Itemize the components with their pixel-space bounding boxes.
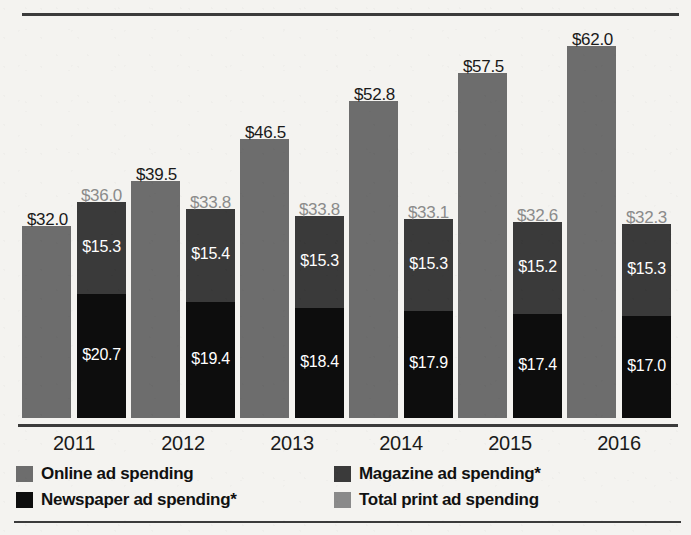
value-label-online-2011: $32.0 <box>20 210 75 230</box>
bar-online-2013 <box>240 139 289 418</box>
bar-online-2014 <box>349 101 398 418</box>
bar-group-2012: $39.5$19.4$15.4$33.8 <box>131 0 235 424</box>
x-tick-label-2013: 2013 <box>240 432 344 455</box>
value-label-newspaper-2013: $18.4 <box>295 353 344 371</box>
segment-online <box>240 139 289 418</box>
legend-label: Total print ad spending <box>359 490 539 510</box>
value-label-newspaper-2015: $17.4 <box>513 356 562 374</box>
segment-online <box>131 181 180 418</box>
x-axis-tick-labels: 201120122013201420152016 <box>0 430 691 460</box>
footnote-text <box>16 527 686 535</box>
x-tick-label-2011: 2011 <box>22 432 126 455</box>
value-label-magazine-2011: $15.3 <box>77 238 126 256</box>
x-axis-baseline <box>18 424 678 427</box>
segment-magazine: $15.4 <box>186 209 235 301</box>
value-label-magazine-2012: $15.4 <box>186 245 235 263</box>
segment-magazine: $15.3 <box>77 202 126 294</box>
segment-newspaper: $19.4 <box>186 302 235 418</box>
legend-item-newspaper[interactable]: Newspaper ad spending* <box>16 490 237 510</box>
bar-online-2011 <box>22 226 71 418</box>
segment-newspaper: $17.0 <box>622 316 671 418</box>
value-label-total-print-2016: $32.3 <box>619 208 674 228</box>
legend-label: Online ad spending <box>41 464 193 484</box>
segment-newspaper: $17.9 <box>404 311 453 418</box>
segment-online <box>22 226 71 418</box>
x-tick-label-2015: 2015 <box>458 432 562 455</box>
value-label-online-2015: $57.5 <box>456 57 511 77</box>
bar-total-print-2014: $17.9$15.3 <box>404 219 453 418</box>
bar-total-print-2013: $18.4$15.3 <box>295 216 344 418</box>
segment-newspaper: $17.4 <box>513 314 562 418</box>
x-tick-label-2012: 2012 <box>131 432 235 455</box>
bar-total-print-2012: $19.4$15.4 <box>186 209 235 418</box>
value-label-online-2012: $39.5 <box>129 165 184 185</box>
value-label-newspaper-2012: $19.4 <box>186 350 235 368</box>
chart-legend: Online ad spendingMagazine ad spending*N… <box>16 464 676 518</box>
segment-online <box>349 101 398 418</box>
bar-total-print-2015: $17.4$15.2 <box>513 222 562 418</box>
value-label-magazine-2016: $15.3 <box>622 260 671 278</box>
value-label-total-print-2013: $33.8 <box>292 200 347 220</box>
bottom-divider-rule <box>14 521 681 523</box>
value-label-newspaper-2011: $20.7 <box>77 346 126 364</box>
value-label-magazine-2013: $15.3 <box>295 252 344 270</box>
value-label-newspaper-2014: $17.9 <box>404 354 453 372</box>
bar-total-print-2011: $20.7$15.3 <box>77 202 126 418</box>
bar-online-2015 <box>458 73 507 418</box>
value-label-magazine-2014: $15.3 <box>404 255 453 273</box>
segment-magazine: $15.3 <box>404 219 453 311</box>
bar-group-2013: $46.5$18.4$15.3$33.8 <box>240 0 344 424</box>
value-label-newspaper-2016: $17.0 <box>622 357 671 375</box>
bar-group-2011: $32.0$20.7$15.3$36.0 <box>22 0 126 424</box>
value-label-total-print-2015: $32.6 <box>510 206 565 226</box>
x-tick-label-2014: 2014 <box>349 432 453 455</box>
legend-swatch-newspaper-icon <box>16 492 33 508</box>
segment-magazine: $15.3 <box>295 216 344 308</box>
segment-magazine: $15.2 <box>513 222 562 313</box>
value-label-total-print-2014: $33.1 <box>401 203 456 223</box>
bar-group-2014: $52.8$17.9$15.3$33.1 <box>349 0 453 424</box>
segment-online <box>458 73 507 418</box>
segment-magazine: $15.3 <box>622 224 671 316</box>
legend-item-online[interactable]: Online ad spending <box>16 464 193 484</box>
x-tick-label-2016: 2016 <box>567 432 671 455</box>
bar-total-print-2016: $17.0$15.3 <box>622 224 671 418</box>
bar-group-2016: $62.0$17.0$15.3$32.3 <box>567 0 671 424</box>
value-label-online-2014: $52.8 <box>347 85 402 105</box>
legend-label: Newspaper ad spending* <box>41 490 237 510</box>
legend-label: Magazine ad spending* <box>359 464 541 484</box>
segment-newspaper: $18.4 <box>295 308 344 418</box>
chart-plot-area: $32.0$20.7$15.3$36.0$39.5$19.4$15.4$33.8… <box>0 0 691 430</box>
legend-swatch-magazine-icon <box>334 466 351 482</box>
bar-group-2015: $57.5$17.4$15.2$32.6 <box>458 0 562 424</box>
segment-online <box>567 46 616 418</box>
value-label-online-2013: $46.5 <box>238 123 293 143</box>
legend-swatch-total-icon <box>334 492 351 508</box>
legend-swatch-online-icon <box>16 466 33 482</box>
value-label-online-2016: $62.0 <box>565 30 620 50</box>
value-label-total-print-2012: $33.8 <box>183 193 238 213</box>
value-label-total-print-2011: $36.0 <box>74 186 129 206</box>
bar-online-2012 <box>131 181 180 418</box>
segment-newspaper: $20.7 <box>77 294 126 418</box>
legend-item-magazine[interactable]: Magazine ad spending* <box>334 464 541 484</box>
legend-item-total[interactable]: Total print ad spending <box>334 490 539 510</box>
bar-online-2016 <box>567 46 616 418</box>
value-label-magazine-2015: $15.2 <box>513 258 562 276</box>
